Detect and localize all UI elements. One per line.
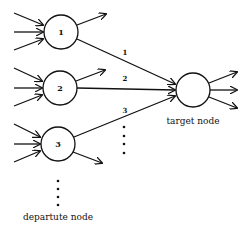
node-1-incoming-arrows xyxy=(14,13,43,50)
node-3-incoming-arrows xyxy=(14,124,40,162)
edge-3-to-target xyxy=(74,96,175,137)
node-ellipsis-dots xyxy=(57,180,60,207)
node-2-outgoing-arrow xyxy=(76,70,105,81)
edge-ellipsis-dots xyxy=(123,126,126,155)
edge-2-to-target xyxy=(77,88,175,90)
edge-3-label: 3 xyxy=(123,106,128,115)
network-diagram: 1 2 3 1 2 3 target node departute node xyxy=(0,0,252,240)
node-1-outgoing-arrow xyxy=(77,14,106,25)
node-2-incoming-arrows xyxy=(14,68,42,106)
node-3-label: 3 xyxy=(55,139,61,149)
target-outgoing-arrows xyxy=(209,72,237,108)
node-1-label: 1 xyxy=(58,27,64,37)
node-3-outgoing-arrow xyxy=(73,152,102,163)
edge-2-label: 2 xyxy=(123,74,128,83)
target-node-caption: target node xyxy=(166,116,219,126)
departure-node-caption: departute node xyxy=(23,212,93,222)
target-node xyxy=(176,73,210,107)
edge-1-label: 1 xyxy=(123,48,128,57)
node-2-label: 2 xyxy=(57,83,63,93)
